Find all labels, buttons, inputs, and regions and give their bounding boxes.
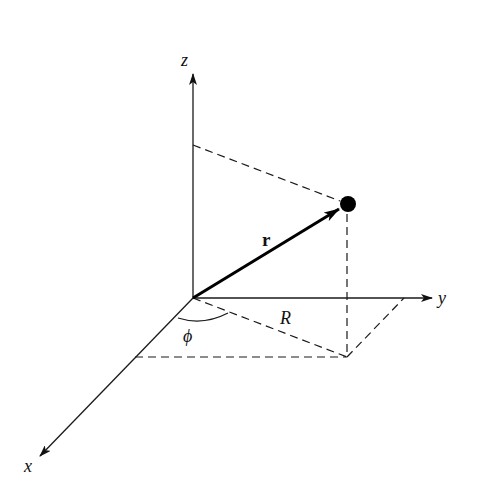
dashed-R-line bbox=[193, 298, 347, 357]
z-axis-label: z bbox=[180, 50, 188, 70]
dashed-y-parallel bbox=[347, 298, 404, 357]
phi-angle-arc bbox=[178, 313, 228, 321]
y-axis-label: y bbox=[436, 288, 446, 308]
R-label: R bbox=[279, 308, 291, 328]
particle-point bbox=[340, 196, 356, 212]
x-axis-label: x bbox=[23, 456, 32, 476]
dashed-z-projection bbox=[193, 145, 340, 201]
phi-label: ϕ bbox=[183, 326, 192, 346]
position-vector-r bbox=[193, 209, 339, 298]
x-axis bbox=[40, 298, 193, 456]
vector-r-label: r bbox=[262, 229, 271, 250]
coordinate-diagram: z y x r R ϕ bbox=[0, 0, 480, 494]
